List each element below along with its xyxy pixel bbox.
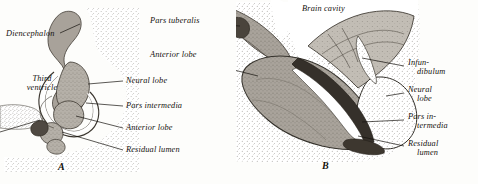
label-residual-lumen-a: Residual lumen — [126, 145, 180, 154]
label-third-ventricle-line2: ventricle — [27, 83, 58, 92]
label-anterior-lobe-a: Anterior lobe — [126, 123, 173, 132]
label-neural-lobe-b: Neural lobe — [408, 85, 474, 103]
label-infundibulum-line1: Infun- — [408, 58, 429, 67]
label-pars-intermedia-b: Pars in- termedia — [408, 112, 476, 130]
label-pars-intermedia-line2: termedia — [417, 121, 448, 130]
label-third-ventricle-a: Third ventricle — [18, 74, 66, 92]
label-pars-intermedia-a: Pars intermedia — [126, 101, 182, 110]
label-pars-tuberalis-b: Pars tuberalis — [150, 16, 200, 25]
panel-b: Pars tuberalis Anterior lobe Brain cavit… — [236, 0, 478, 184]
label-residual-lumen-line1: Residual — [408, 139, 438, 148]
label-anterior-lobe-b: Anterior lobe — [150, 50, 197, 59]
panel-letter-b: B — [322, 160, 329, 171]
label-brain-cavity: Brain cavity — [302, 4, 345, 13]
label-neural-lobe-line2: lobe — [417, 94, 432, 103]
label-infundibulum: Infun- dibulum — [408, 58, 474, 76]
figure-plate: Diencephalon Third ventricle Neural lobe… — [0, 0, 478, 184]
label-diencephalon-a: Diencephalon — [6, 29, 55, 38]
ventral-lobule-a — [47, 139, 65, 154]
label-pars-intermedia-line1: Pars in- — [408, 112, 436, 121]
leader-neural-lobe — [88, 81, 123, 84]
label-third-ventricle-line1: Third — [33, 74, 52, 83]
panel-letter-a: A — [58, 161, 65, 172]
label-residual-lumen-line2: lumen — [417, 148, 438, 157]
label-residual-lumen-b: Residual lumen — [408, 139, 474, 157]
label-neural-lobe-line1: Neural — [408, 85, 432, 94]
leader-anterior-lobe — [76, 116, 123, 128]
leader-pars-intermedia — [86, 103, 123, 106]
panel-a: Diencephalon Third ventricle Neural lobe… — [0, 0, 236, 184]
label-infundibulum-line2: dibulum — [417, 67, 445, 76]
label-neural-lobe-a: Neural lobe — [126, 76, 167, 85]
